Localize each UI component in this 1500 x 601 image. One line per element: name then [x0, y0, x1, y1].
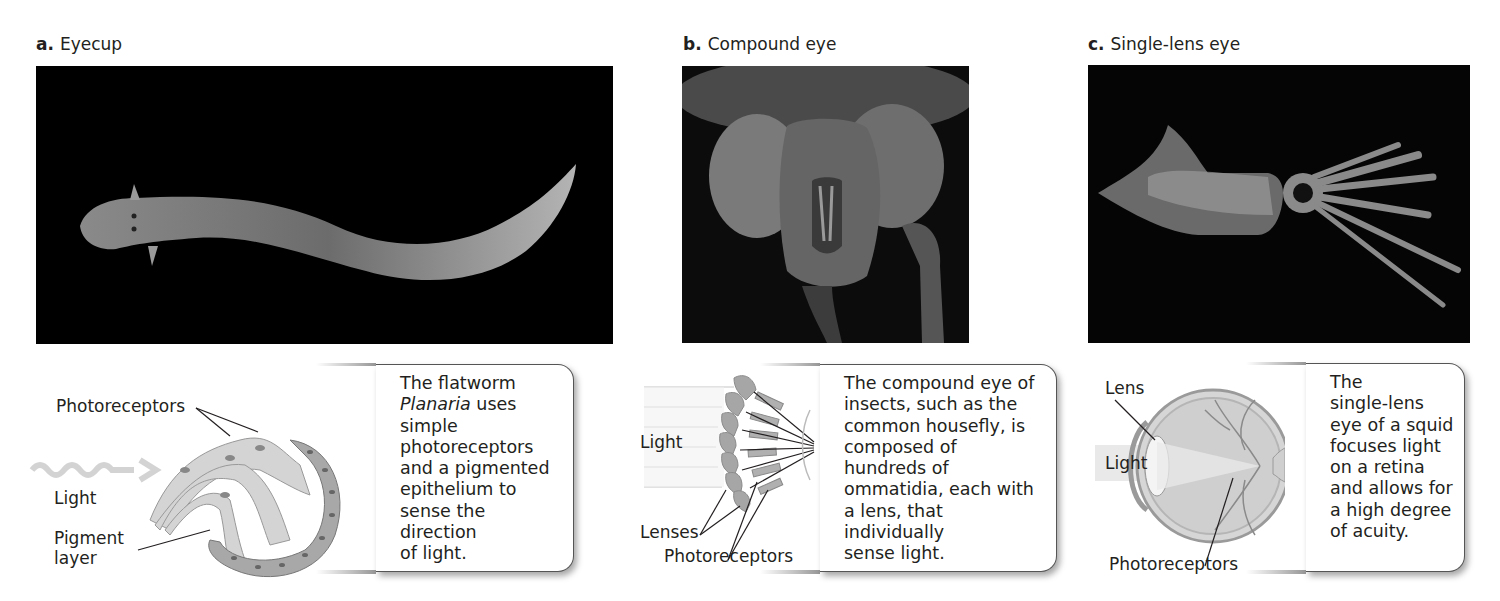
caption-a-line: photoreceptors [400, 437, 563, 458]
label-light-a: Light [54, 488, 96, 508]
panel-b-title-text: Compound eye [708, 34, 837, 54]
caption-a-line: sense the direction [400, 501, 563, 544]
caption-a-line: The flatworm [400, 373, 563, 394]
squid-photo [1088, 65, 1470, 343]
caption-b-line: composed of [844, 437, 1046, 458]
planaria-image-icon [36, 66, 613, 344]
caption-box-c: The single-lens eye of a squid focuses l… [1306, 363, 1465, 572]
label-light-b: Light [640, 432, 682, 452]
panel-c-title: c.Single-lens eye [1088, 34, 1240, 54]
panel-c-title-text: Single-lens eye [1111, 34, 1241, 54]
caption-b-line: ommatidia, each with [844, 479, 1046, 500]
caption-c-line: on a retina [1330, 457, 1454, 478]
planaria-photo [36, 66, 613, 344]
caption-a-line: and a pigmented [400, 458, 563, 479]
caption-a-text: uses [471, 394, 517, 414]
caption-c-line: a high degree [1330, 500, 1454, 521]
caption-c-line: focuses light [1330, 436, 1454, 457]
squid-image-icon [1088, 65, 1470, 343]
caption-b-line: The compound eye of [844, 373, 1046, 394]
caption-box-a: The flatworm Planaria uses simple photor… [376, 364, 574, 572]
label-photoreceptors-c: Photoreceptors [1109, 554, 1238, 574]
clipped-text-line [0, 0, 1500, 10]
panel-a-title-text: Eyecup [60, 34, 122, 54]
panel-b-letter: b. [683, 34, 702, 54]
panel-c-letter: c. [1088, 34, 1105, 54]
caption-a-line: epithelium to [400, 479, 563, 500]
label-lenses-b: Lenses [640, 522, 699, 542]
species-name-planaria: Planaria [400, 394, 471, 414]
eyecup-diagram: Photoreceptors Light Pigment layer [20, 370, 350, 590]
label-light-c: Light [1105, 453, 1147, 473]
panel-a-title: a.Eyecup [36, 34, 122, 54]
caption-box-b: The compound eye of insects, such as the… [820, 364, 1057, 572]
caption-a-line: simple [400, 416, 563, 437]
caption-c-line: single-lens [1330, 393, 1454, 414]
housefly-photo [682, 66, 969, 343]
caption-b-line: a lens, that individually [844, 501, 1046, 544]
panel-b-title: b.Compound eye [683, 34, 836, 54]
caption-b-line: hundreds of [844, 458, 1046, 479]
caption-c-line: and allows for [1330, 478, 1454, 499]
caption-c-line: eye of a squid [1330, 415, 1454, 436]
compound-eye-diagram: Light Lenses Photoreceptors [634, 370, 834, 595]
housefly-image-icon [682, 66, 969, 343]
label-pigment-layer-a: layer [54, 548, 97, 568]
caption-c-line: The [1330, 372, 1454, 393]
caption-b-line: common housefly, is [844, 416, 1046, 437]
label-lens-c: Lens [1105, 378, 1144, 398]
caption-a-line: Planaria uses [400, 394, 563, 415]
label-pigment-a: Pigment [54, 528, 124, 548]
label-photoreceptors-b: Photoreceptors [664, 546, 793, 566]
panel-a-letter: a. [36, 34, 54, 54]
caption-a-line: of light. [400, 543, 563, 564]
caption-b-line: sense light. [844, 543, 1046, 564]
single-lens-eye-diagram: Lens Light Photoreceptors [1095, 370, 1285, 590]
caption-c-line: of acuity. [1330, 521, 1454, 542]
label-photoreceptors-a: Photoreceptors [56, 396, 185, 416]
caption-b-line: insects, such as the [844, 394, 1046, 415]
